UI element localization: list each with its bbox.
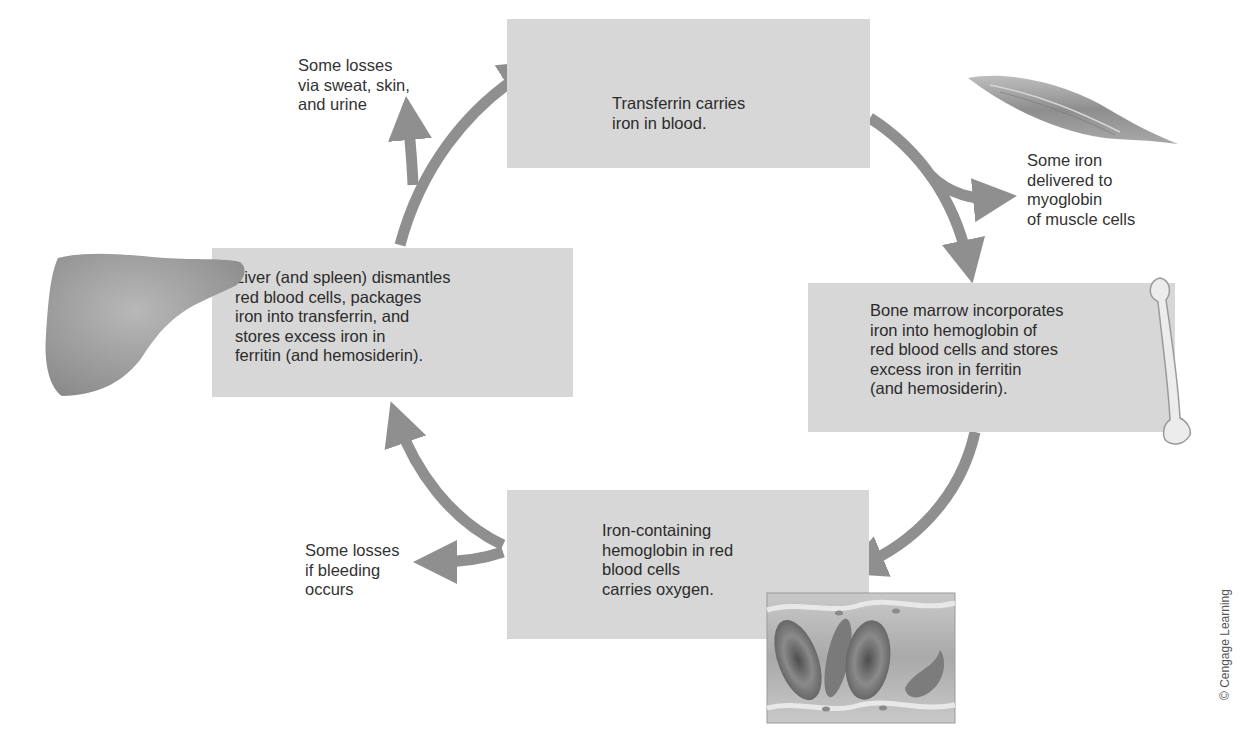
muscle-icon bbox=[968, 76, 1178, 144]
copyright-credit: © Cengage Learning bbox=[1218, 589, 1232, 700]
bone-icon bbox=[1150, 278, 1190, 444]
illustrations-layer bbox=[0, 0, 1245, 756]
blood-vessel-icon bbox=[765, 593, 955, 723]
liver-icon bbox=[46, 254, 245, 396]
